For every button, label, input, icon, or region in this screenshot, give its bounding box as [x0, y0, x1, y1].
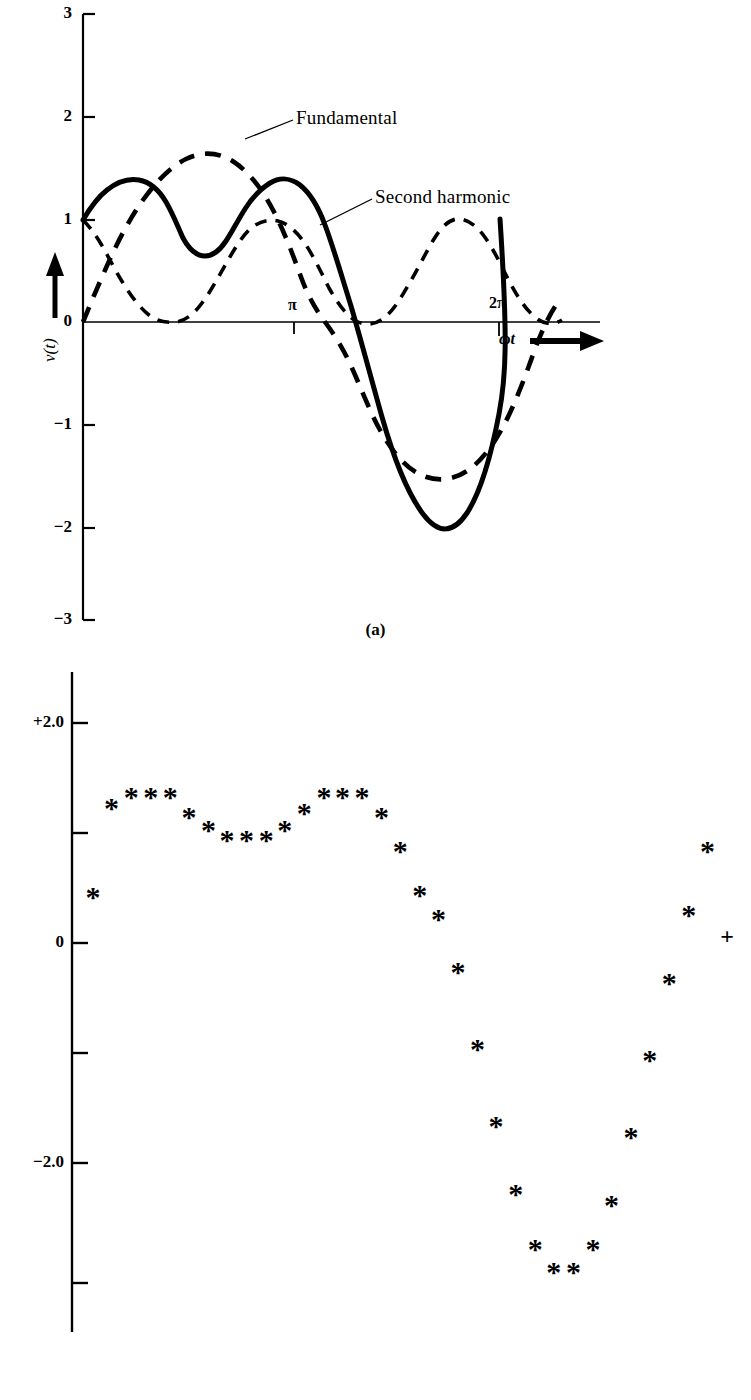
- annotation-second-harmonic: Second harmonic: [375, 186, 510, 208]
- annotation-fundamental: Fundamental: [296, 107, 397, 129]
- data-point-asterisk: *: [528, 1232, 543, 1265]
- y-tick-label-a-2: 1: [42, 209, 72, 229]
- data-point-asterisk: *: [546, 1255, 561, 1288]
- y-tick-label-b-pos2: +2.0: [0, 712, 64, 732]
- y-axis-label-a: v(t): [40, 338, 60, 362]
- data-point-asterisk: *: [259, 823, 274, 856]
- data-point-asterisk: *: [124, 780, 139, 813]
- data-point-asterisk: *: [143, 780, 158, 813]
- leader-line-second-harmonic: [320, 199, 372, 225]
- data-point-asterisk: *: [489, 1109, 504, 1142]
- data-point-asterisk: *: [297, 796, 312, 829]
- data-point-asterisk: *: [642, 1043, 657, 1076]
- figure-a-svg: [0, 0, 751, 660]
- v-axis-arrow-icon: [46, 252, 64, 318]
- x-axis-label-a: ωt: [499, 330, 515, 348]
- data-point-asterisk: *: [277, 813, 292, 846]
- data-point-asterisk: *: [181, 800, 196, 833]
- data-point-asterisk: *: [86, 880, 101, 913]
- data-point-asterisk: *: [412, 878, 427, 911]
- data-point-asterisk: *: [374, 800, 389, 833]
- data-point-asterisk: *: [163, 780, 178, 813]
- data-point-asterisk: *: [624, 1120, 639, 1153]
- data-point-asterisk: *: [508, 1177, 523, 1210]
- y-tick-label-a-0: 3: [42, 3, 72, 23]
- data-point-asterisk: *: [239, 823, 254, 856]
- data-point-asterisk: *: [335, 780, 350, 813]
- y-tick-label-a-4: −1: [34, 414, 72, 434]
- data-point-plus-marker: +: [720, 923, 734, 949]
- data-point-asterisk: *: [586, 1232, 601, 1265]
- y-ticks-b: [72, 723, 88, 1283]
- data-point-asterisk: *: [316, 780, 331, 813]
- data-point-asterisk: *: [104, 791, 119, 824]
- figure-b-sampled-plot: *********************************+ +2.0 …: [0, 660, 751, 1400]
- data-point-asterisk: *: [450, 955, 465, 988]
- data-point-asterisk: *: [355, 780, 370, 813]
- data-point-asterisk: *: [662, 966, 677, 999]
- x-tick-label-pi: π: [288, 296, 297, 314]
- y-tick-label-b-zero: 0: [0, 932, 64, 952]
- data-point-asterisk: *: [431, 902, 446, 935]
- y-tick-label-b-neg2: −2.0: [0, 1152, 64, 1172]
- y-tick-label-a-3: 0: [42, 311, 72, 331]
- x-tick-label-2pi: 2π: [489, 294, 506, 312]
- y-tick-label-a-5: −2: [34, 517, 72, 537]
- scatter-points-b: *********************************+: [86, 780, 734, 1288]
- y-tick-label-a-1: 2: [42, 106, 72, 126]
- caption-a: (a): [0, 620, 751, 640]
- data-point-asterisk: *: [393, 834, 408, 867]
- figure-a-waveform-plot: 3 2 1 0 −1 −2 −3 v(t) π 2π ωt Fundamenta…: [0, 0, 751, 660]
- data-point-asterisk: *: [604, 1188, 619, 1221]
- data-point-asterisk: *: [700, 834, 715, 867]
- data-point-asterisk: *: [470, 1032, 485, 1065]
- data-point-asterisk: *: [201, 813, 216, 846]
- data-point-asterisk: *: [681, 898, 696, 931]
- data-point-asterisk: *: [220, 823, 235, 856]
- leader-line-fundamental: [245, 120, 293, 139]
- figure-b-svg: *********************************+: [0, 660, 751, 1400]
- data-point-asterisk: *: [566, 1255, 581, 1288]
